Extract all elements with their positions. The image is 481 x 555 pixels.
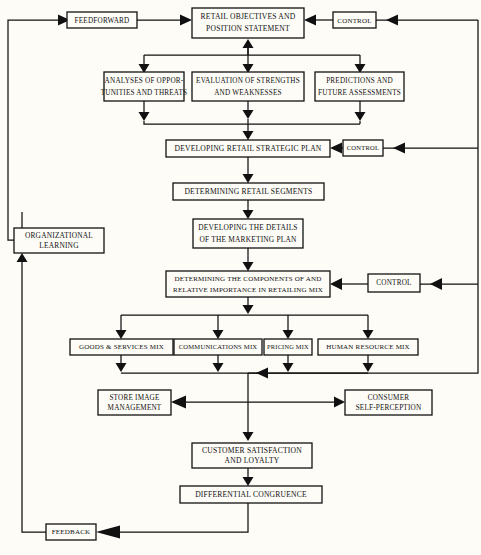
- node-label-evaluation-line2: AND WEAKNESSES: [214, 89, 282, 97]
- node-label-satisfaction-line2: AND LOYALTY: [225, 456, 280, 465]
- node-customer-satisfaction[interactable]: CUSTOMER SATISFACTION AND LOYALTY: [192, 443, 312, 468]
- node-layer: FEEDFORWARD RETAIL OBJECTIVES AND POSITI…: [14, 8, 432, 540]
- node-label-pricing-mix: PRICING MIX: [267, 343, 309, 350]
- node-label-feedback: FEEDBACK: [52, 528, 91, 536]
- node-label-consumer-line2: SELF-PERCEPTION: [356, 404, 422, 412]
- node-label-human-resource-mix: HUMAN RESOURCE MIX: [326, 343, 410, 351]
- node-store-image-management[interactable]: STORE IMAGE MANAGEMENT: [98, 390, 171, 415]
- node-organizational-learning[interactable]: ORGANIZATIONAL LEARNING: [14, 228, 104, 253]
- node-communications-mix[interactable]: COMMUNICATIONS MIX: [174, 339, 262, 355]
- node-label-marketing-line2: OF THE MARKETING PLAN: [199, 235, 297, 244]
- node-label-determining-segments: DETERMINING RETAIL SEGMENTS: [184, 187, 312, 196]
- arrowhead-feedback-in: [96, 526, 120, 539]
- node-pricing-mix[interactable]: PRICING MIX: [264, 339, 312, 355]
- arrowhead-components-out: [243, 305, 254, 314]
- arrowhead-control1-in: [386, 15, 398, 26]
- arrowhead-plan-in-right: [330, 143, 342, 154]
- node-label-goods-services-mix: GOODS & SERVICES MIX: [79, 343, 164, 351]
- edge-left-loop-to-feedforward: [8, 20, 58, 240]
- node-feedback[interactable]: FEEDBACK: [46, 524, 96, 540]
- flowchart-diagram: FEEDFORWARD RETAIL OBJECTIVES AND POSITI…: [0, 0, 481, 555]
- node-feedforward[interactable]: FEEDFORWARD: [67, 12, 137, 28]
- node-predictions-future[interactable]: PREDICTIONS AND FUTURE ASSESSMENTS: [315, 72, 404, 101]
- node-label-analyses-line2: TUNITIES AND THREATS: [101, 89, 188, 97]
- node-label-consumer-line1: CONSUMER: [368, 394, 410, 402]
- arrowhead-control3-in: [430, 278, 442, 290]
- node-label-control-3: CONTROL: [376, 279, 411, 287]
- node-label-communications-mix: COMMUNICATIONS MIX: [179, 343, 258, 350]
- node-control-2[interactable]: CONTROL: [343, 140, 383, 156]
- arrowhead-store-image-in: [171, 396, 186, 409]
- arrowhead-pricing-out: [283, 363, 294, 372]
- node-label-retail-objectives-line2: POSITION STATEMENT: [206, 24, 290, 33]
- node-label-components-line1: DETERMINING THE COMPONENTS OF AND: [175, 275, 322, 283]
- arrowhead-objectives-in-right: [304, 15, 316, 26]
- node-control-3[interactable]: CONTROL: [368, 274, 420, 292]
- arrowhead-goods-in: [116, 330, 127, 339]
- node-label-marketing-line1: DEVELOPING THE DETAILS: [198, 223, 297, 232]
- node-label-feedforward: FEEDFORWARD: [75, 17, 130, 25]
- node-label-predictions-line2: FUTURE ASSESSMENTS: [318, 89, 401, 97]
- arrowhead-segments-in: [243, 174, 254, 183]
- node-evaluation-strengths[interactable]: EVALUATION OF STRENGTHS AND WEAKNESSES: [192, 72, 304, 101]
- arrowhead-control2-in: [393, 143, 405, 154]
- arrowhead-pricing-in: [283, 330, 294, 339]
- node-retail-objectives[interactable]: RETAIL OBJECTIVES AND POSITION STATEMENT: [192, 8, 304, 38]
- node-label-store-image-line1: STORE IMAGE: [109, 394, 160, 402]
- node-label-predictions-line1: PREDICTIONS AND: [326, 77, 393, 85]
- node-label-strategic-plan: DEVELOPING RETAIL STRATEGIC PLAN: [174, 144, 321, 153]
- arrowhead-hr-in: [363, 330, 374, 339]
- arrowhead-evaluation-out: [243, 110, 254, 119]
- flowchart-canvas: FEEDFORWARD RETAIL OBJECTIVES AND POSITI…: [0, 0, 481, 555]
- edge-congruence-to-feedback: [120, 503, 248, 532]
- arrowhead-objectives-in-left: [180, 15, 192, 26]
- arrowhead-comms-out: [213, 363, 224, 372]
- node-label-components-line2: RELATIVE IMPORTANCE IN RETAILING MIX: [173, 286, 323, 294]
- arrowhead-congruence-in: [243, 477, 254, 486]
- node-label-satisfaction-line1: CUSTOMER SATISFACTION: [202, 446, 302, 455]
- node-label-organizational-line1: ORGANIZATIONAL: [25, 231, 93, 240]
- node-developing-strategic-plan[interactable]: DEVELOPING RETAIL STRATEGIC PLAN: [166, 140, 330, 157]
- arrowhead-components-in: [243, 262, 254, 271]
- node-label-retail-objectives-line1: RETAIL OBJECTIVES AND: [201, 12, 296, 21]
- node-label-control-1: CONTROL: [337, 17, 371, 25]
- node-label-evaluation-line1: EVALUATION OF STRENGTHS: [196, 77, 300, 85]
- node-developing-marketing-plan[interactable]: DEVELOPING THE DETAILS OF THE MARKETING …: [193, 219, 303, 248]
- edge-merge-bus-bottom: [144, 121, 360, 124]
- node-label-differential-congruence: DIFFERENTIAL CONGRUENCE: [195, 490, 307, 499]
- arrowhead-comms-in: [213, 330, 224, 339]
- node-differential-congruence[interactable]: DIFFERENTIAL CONGRUENCE: [180, 486, 322, 503]
- arrowhead-consumer-in: [334, 397, 345, 408]
- node-goods-services-mix[interactable]: GOODS & SERVICES MIX: [70, 339, 173, 355]
- arrowhead-marketing-in: [243, 210, 254, 219]
- arrowhead-goods-out: [116, 363, 127, 372]
- node-control-1[interactable]: CONTROL: [333, 12, 376, 28]
- arrowhead-components-in-right: [330, 278, 342, 290]
- arrowhead-satisfaction-in: [243, 432, 254, 441]
- edge-feedback-to-learning: [22, 258, 46, 532]
- node-human-resource-mix[interactable]: HUMAN RESOURCE MIX: [318, 339, 418, 355]
- node-label-store-image-line2: MANAGEMENT: [108, 404, 162, 412]
- node-label-analyses-line1: ANALYSES OF OPPOR-: [105, 77, 184, 85]
- arrowhead-predictions-out: [355, 112, 366, 121]
- node-determining-components[interactable]: DETERMINING THE COMPONENTS OF AND RELATI…: [166, 271, 330, 297]
- node-analyses-opportunities[interactable]: ANALYSES OF OPPOR- TUNITIES AND THREATS: [101, 72, 188, 101]
- arrowhead-analyses-out: [139, 112, 150, 121]
- arrowhead-objectives-in-bottom: [243, 39, 254, 48]
- arrowhead-learning-in: [17, 253, 28, 262]
- node-label-organizational-line2: LEARNING: [39, 241, 79, 250]
- arrowhead-hr-out: [363, 363, 374, 372]
- node-consumer-self-perception[interactable]: CONSUMER SELF-PERCEPTION: [345, 390, 432, 415]
- node-determining-segments[interactable]: DETERMINING RETAIL SEGMENTS: [173, 183, 324, 200]
- arrowhead-strategic-plan-in: [243, 131, 254, 140]
- node-label-control-2: CONTROL: [347, 144, 380, 151]
